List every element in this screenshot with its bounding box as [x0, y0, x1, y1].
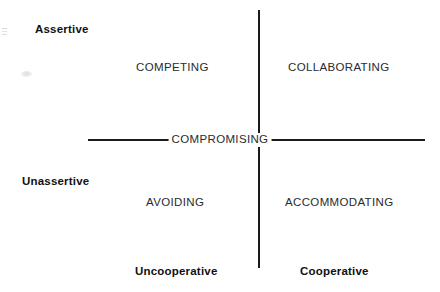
mode-label-compromising: COMPROMISING [169, 133, 272, 147]
axis-anchor-uncooperative: Uncooperative [135, 266, 217, 278]
scan-artifact-top-left [2, 28, 7, 36]
mode-label-competing: COMPETING [136, 62, 209, 74]
mode-label-accommodating: ACCOMMODATING [285, 197, 393, 209]
axis-anchor-unassertive: Unassertive [22, 176, 89, 188]
mode-label-collaborating: COLLABORATING [288, 62, 389, 74]
scan-artifact-left-margin [21, 71, 32, 77]
conflict-mode-diagram: COMPETING COLLABORATING COMPROMISING AVO… [0, 0, 440, 292]
mode-label-avoiding: AVOIDING [146, 197, 204, 209]
axis-anchor-cooperative: Cooperative [300, 266, 369, 278]
axis-anchor-assertive: Assertive [35, 24, 89, 36]
